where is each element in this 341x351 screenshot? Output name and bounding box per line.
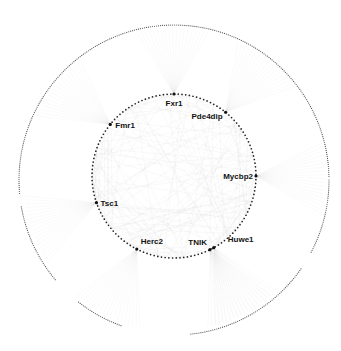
node-label: Fmr1 xyxy=(115,121,135,130)
node-dot xyxy=(135,247,138,250)
node-label: Pde4dip xyxy=(191,112,222,121)
node-dot xyxy=(172,92,175,95)
outer-arc xyxy=(21,206,56,280)
node-pde4dip: Pde4dip xyxy=(191,111,227,122)
outer-arc xyxy=(311,179,330,252)
node-mycbp2: Mycbp2 xyxy=(223,172,257,181)
node-label: TNIK xyxy=(188,238,207,247)
outer-arc xyxy=(190,268,301,334)
node-dot xyxy=(224,111,227,114)
node-label: Tsc1 xyxy=(100,199,118,208)
node-label: Mycbp2 xyxy=(223,172,253,181)
node-dot xyxy=(109,123,112,126)
outer-ring xyxy=(18,24,329,334)
node-label: Fxr1 xyxy=(166,99,183,108)
node-dot xyxy=(208,248,211,251)
node-dot xyxy=(254,174,257,177)
node-dot xyxy=(95,201,98,204)
node-label: Huwe1 xyxy=(228,235,254,244)
outer-arc xyxy=(78,302,122,327)
node-label: Herc2 xyxy=(141,237,164,246)
hub-nodes: Fxr1Pde4dipFmr1Mycbp2Tsc1Herc2TNIKHuwe1 xyxy=(95,92,258,251)
network-diagram: Fxr1Pde4dipFmr1Mycbp2Tsc1Herc2TNIKHuwe1 xyxy=(0,0,341,351)
node-dot xyxy=(212,246,215,249)
